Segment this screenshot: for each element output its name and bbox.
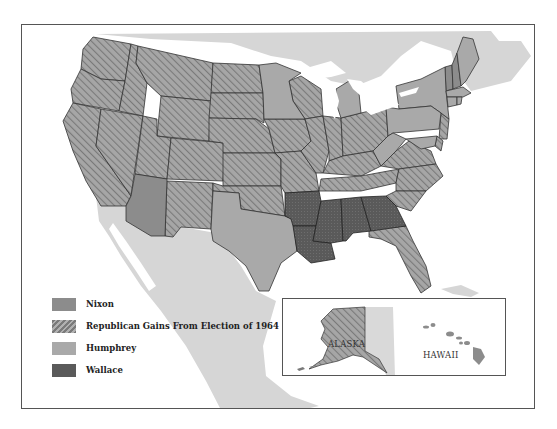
legend-label: Humphrey	[86, 343, 136, 353]
legend-item-nixon: Nixon	[52, 297, 114, 311]
state-colorado	[167, 138, 225, 181]
legend-item-wallace: Wallace	[52, 363, 123, 377]
state-montana	[136, 46, 213, 101]
legend-label: Wallace	[86, 365, 123, 375]
nixon-swatch	[52, 298, 76, 311]
inset-map	[283, 299, 506, 376]
state-wyoming	[157, 96, 211, 141]
alaska-hawaii-inset: ALASKA HAWAII	[282, 298, 506, 376]
legend-label: Republican Gains From Election of 1964	[86, 321, 279, 331]
cuba-land	[441, 285, 479, 297]
republican-gain-swatch	[52, 320, 76, 333]
state-pennsylvania	[386, 106, 441, 136]
hawaii-label: HAWAII	[423, 350, 459, 360]
legend-item-humphrey: Humphrey	[52, 341, 136, 355]
legend-item-republican-gain: Republican Gains From Election of 1964	[52, 319, 279, 333]
state-kansas	[223, 153, 281, 186]
map-frame: Nixon Republican Gains From Election of …	[21, 24, 535, 409]
legend-label: Nixon	[86, 299, 114, 309]
wallace-swatch	[52, 364, 76, 377]
state-rhode-island	[457, 97, 462, 105]
state-north-dakota	[211, 63, 263, 93]
wallace-states	[285, 191, 406, 263]
state-north-carolina	[396, 164, 443, 191]
state-connecticut	[447, 97, 457, 107]
humphrey-swatch	[52, 342, 76, 355]
state-florida	[369, 226, 431, 293]
alaska-label: ALASKA	[328, 339, 365, 349]
